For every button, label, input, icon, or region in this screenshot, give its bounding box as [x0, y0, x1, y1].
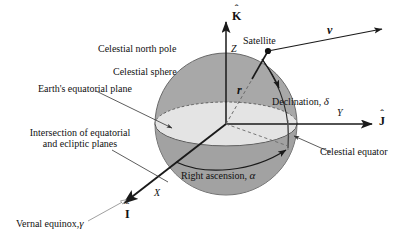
vernal-equinox-text: Vernal equinox,: [16, 218, 79, 229]
axis-label-z: Z: [231, 44, 237, 55]
vernal-equinox-leader: [88, 200, 126, 221]
axis-label-i-hat: ˆ I: [125, 208, 130, 221]
axis-label-k-hat: ˆ K: [232, 10, 241, 23]
label-celestial-equator: Celestial equator: [320, 147, 387, 158]
axis-label-j-hat: ˆ J: [379, 115, 385, 128]
celestial-sphere-figure: Celestial north pole Celestial sphere Ea…: [0, 0, 419, 247]
right-ascension-text: Right ascension,: [181, 170, 247, 181]
axis-label-y: Y: [337, 108, 343, 119]
label-intersection-planes: Intersection of equatorial and ecliptic …: [6, 128, 154, 150]
label-velocity-vector: v: [327, 24, 332, 37]
i-hat-accent: ˆ: [125, 201, 130, 213]
label-position-vector: r: [237, 84, 242, 97]
label-celestial-sphere: Celestial sphere: [113, 67, 177, 78]
label-earths-equatorial-plane: Earth's equatorial plane: [38, 84, 132, 95]
label-celestial-north-pole: Celestial north pole: [98, 44, 176, 55]
intersection-leader: [112, 150, 168, 182]
k-hat-accent: ˆ: [232, 3, 241, 15]
label-right-ascension: Right ascension, α: [181, 170, 255, 182]
label-vernal-equinox: Vernal equinox,γ: [16, 218, 84, 230]
intersection-line-2: and ecliptic planes: [6, 139, 154, 150]
j-hat-accent: ˆ: [379, 108, 385, 120]
right-ascension-symbol: α: [250, 169, 256, 181]
declination-text: Declination,: [272, 96, 321, 107]
label-satellite: Satellite: [243, 36, 276, 47]
vernal-equinox-symbol: γ: [79, 217, 83, 229]
declination-symbol: δ: [324, 95, 329, 107]
velocity-vector: [268, 29, 382, 51]
diagram-canvas: [0, 0, 419, 247]
label-declination: Declination, δ: [272, 96, 329, 108]
axis-label-x: X: [154, 188, 160, 199]
